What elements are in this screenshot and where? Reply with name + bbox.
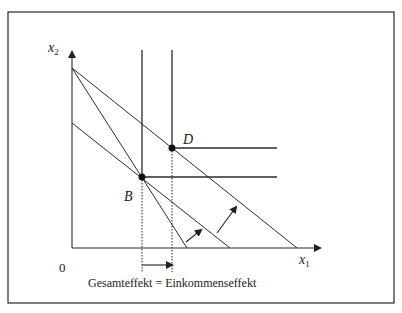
income-effect-diagram: x2 x1 0 B D Gesamteffekt = Einkommenseff…: [0, 0, 402, 313]
figure-frame: [8, 12, 394, 303]
shift-arrow-large: [217, 207, 236, 233]
shifted-budget-line: [72, 68, 297, 248]
indifference-curve-B: [142, 50, 277, 177]
point-B-label: B: [124, 189, 133, 204]
x-axis-label: x1: [298, 252, 310, 269]
y-axis-label: x2: [47, 40, 59, 57]
point-D: [169, 145, 176, 152]
shift-arrow-small: [186, 230, 201, 242]
original-budget-line: [72, 123, 230, 248]
steep-budget-line: [72, 68, 187, 248]
point-B: [139, 174, 146, 181]
origin-label: 0: [59, 260, 66, 275]
point-D-label: D: [182, 132, 193, 147]
caption: Gesamteffekt = Einkommenseffekt: [88, 276, 257, 290]
